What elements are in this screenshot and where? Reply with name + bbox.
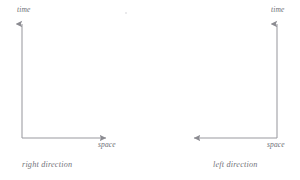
time-axis-label-left: time: [17, 5, 31, 14]
time-axis-label-right: time: [271, 5, 285, 14]
left-direction-axes: [194, 24, 277, 138]
axes-canvas: [0, 0, 300, 180]
right-direction-axes: [22, 24, 106, 138]
space-time-diagram-figure: time space right direction time space le…: [0, 0, 300, 180]
caption-right-direction: right direction: [22, 160, 72, 170]
space-axis-label-right: space: [267, 140, 285, 149]
scan-artifact-speck: [125, 12, 127, 14]
space-axis-label-left: space: [98, 140, 116, 149]
caption-left-direction: left direction: [213, 160, 258, 170]
